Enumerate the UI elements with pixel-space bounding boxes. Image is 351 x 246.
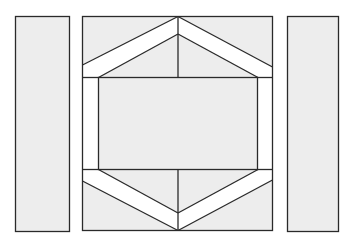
right-panel <box>288 17 339 232</box>
left-panel <box>16 17 70 232</box>
center-block <box>83 17 273 231</box>
quilt-diagram <box>0 0 351 246</box>
inner-rectangle <box>99 78 258 170</box>
